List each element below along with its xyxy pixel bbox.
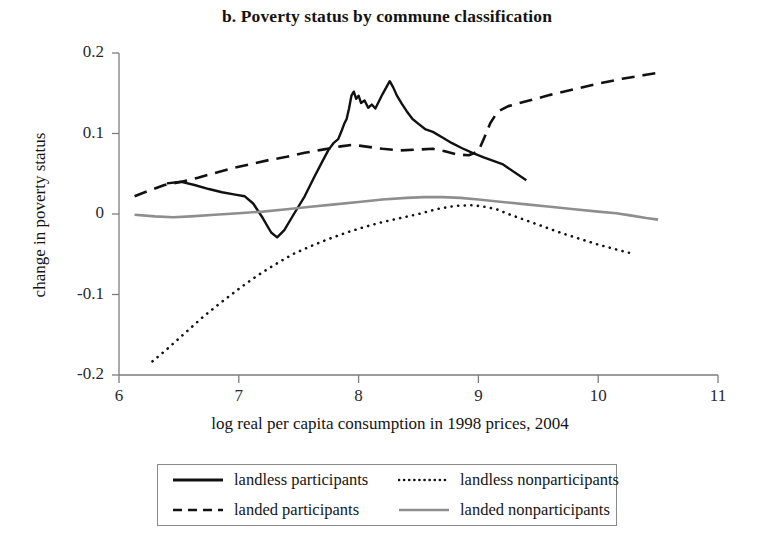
y-tick-label: 0.2 bbox=[52, 42, 104, 62]
legend-item: landed nonparticipants bbox=[390, 500, 618, 520]
plot-area bbox=[0, 0, 774, 541]
x-tick-label: 6 bbox=[94, 386, 144, 406]
legend-label: landless participants bbox=[234, 470, 368, 490]
x-tick-label: 7 bbox=[214, 386, 264, 406]
figure-panel-b: b. Poverty status by commune classificat… bbox=[0, 0, 774, 541]
x-tick-label: 11 bbox=[693, 386, 743, 406]
legend-label: landed participants bbox=[234, 500, 359, 520]
legend-swatch-dashed-icon bbox=[172, 503, 224, 517]
y-tick-label: -0.2 bbox=[52, 364, 104, 384]
legend-item: landed participants bbox=[158, 500, 390, 520]
x-tick-label: 8 bbox=[334, 386, 384, 406]
legend-item: landless participants bbox=[158, 470, 390, 490]
series-line-landless-nonparticipants bbox=[153, 205, 632, 361]
series-line-landed-nonparticipants bbox=[135, 197, 659, 220]
y-tick-label: 0.1 bbox=[52, 123, 104, 143]
legend-item: landless nonparticipants bbox=[390, 470, 618, 490]
x-tick-label: 9 bbox=[453, 386, 503, 406]
legend-swatch-solid-icon bbox=[398, 503, 450, 517]
x-tick-label: 10 bbox=[573, 386, 623, 406]
series-line-landed-participants bbox=[135, 72, 661, 196]
y-tick-label: -0.1 bbox=[52, 284, 104, 304]
legend: landless participantslandless nonpartici… bbox=[157, 464, 617, 526]
legend-swatch-solid-icon bbox=[172, 473, 224, 487]
legend-swatch-dotted-icon bbox=[398, 473, 450, 487]
legend-label: landed nonparticipants bbox=[460, 500, 610, 520]
legend-label: landless nonparticipants bbox=[460, 470, 619, 490]
y-tick-label: 0 bbox=[52, 203, 104, 223]
